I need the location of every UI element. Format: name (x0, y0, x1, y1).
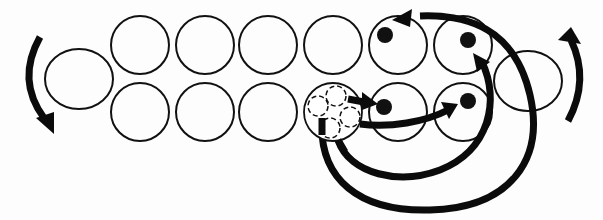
top-slot-5 (369, 16, 427, 74)
bottom-slot-1 (111, 83, 169, 141)
top-row (111, 16, 492, 74)
ring-transfer-diagram (0, 0, 603, 220)
bottom-slot-3 (239, 83, 297, 141)
bottom-row (111, 83, 492, 141)
left-rotation-arrow-icon (29, 37, 54, 134)
token-top-5-icon (377, 27, 393, 43)
diagram-canvas (0, 0, 603, 220)
token-top-6-icon (460, 32, 476, 48)
token-bottom-6-icon (460, 93, 476, 109)
top-slot-4 (304, 16, 362, 74)
top-slot-3 (239, 16, 297, 74)
token-bottom-5-icon (376, 99, 392, 115)
cluster-slot (304, 83, 362, 141)
bottom-slot-2 (176, 83, 234, 141)
top-slot-2 (176, 16, 234, 74)
left-end-slot (45, 49, 113, 109)
bottom-slot-5 (369, 83, 427, 141)
transfer-arrow-to-bottom-6 (360, 102, 458, 125)
bottom-slot-4-cluster (304, 83, 362, 141)
top-slot-1 (111, 16, 169, 74)
